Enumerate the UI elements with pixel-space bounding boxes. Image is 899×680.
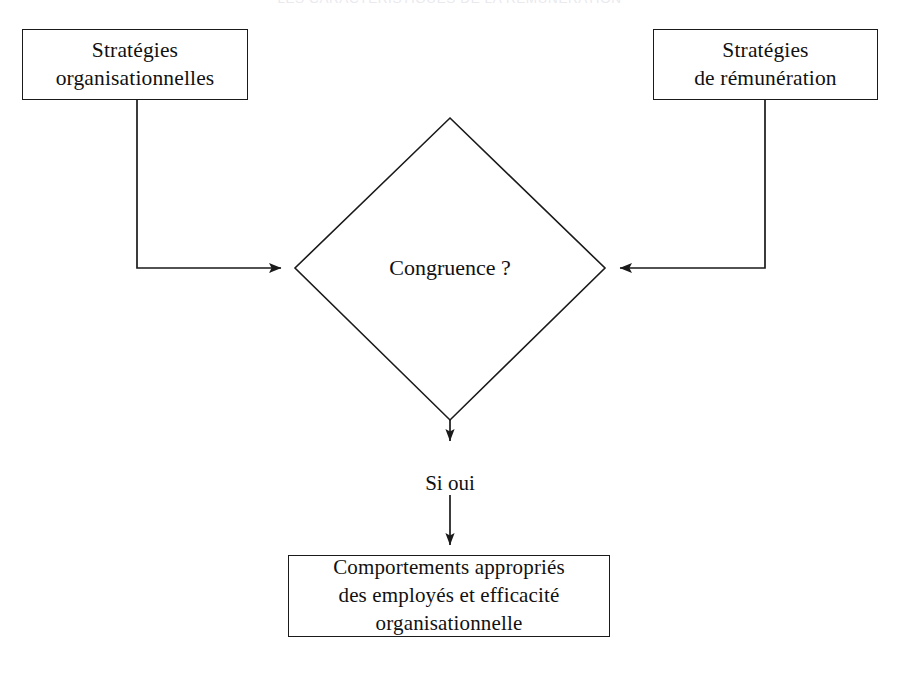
node-congruence-label: Congruence ? xyxy=(300,255,600,281)
node-resultat-label: Comportements appropriés des employés et… xyxy=(333,554,565,637)
flowchart-diagram: LES CARACTÉRISTIQUES DE LA RÉMUNÉRATION … xyxy=(0,0,899,680)
connector-org-to-decision xyxy=(137,100,281,268)
node-strategies-remuneration: Stratégies de rémunération xyxy=(653,29,878,100)
node-strategies-remuneration-label: Stratégies de rémunération xyxy=(694,37,837,93)
node-resultat: Comportements appropriés des employés et… xyxy=(288,555,610,637)
node-strategies-organisationnelles: Stratégies organisationnelles xyxy=(22,29,248,100)
connector-remuneration-to-decision xyxy=(620,100,765,268)
edge-label-si-oui: Si oui xyxy=(390,471,510,496)
node-strategies-organisationnelles-label: Stratégies organisationnelles xyxy=(56,37,215,93)
